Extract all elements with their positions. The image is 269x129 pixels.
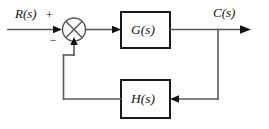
summing-junction-minus-sign: − [50, 34, 57, 46]
feedback-takeoff [170, 30, 218, 103]
output-signal-label: C(s) [213, 6, 235, 19]
feedback-into-sum [64, 37, 78, 99]
summing-junction-plus-sign: + [46, 9, 53, 21]
output-arrowhead-icon [240, 25, 251, 33]
feedback-block-arrowhead-icon [170, 95, 179, 102]
output-wire [170, 25, 251, 33]
input-signal-label: R(s) [15, 7, 37, 20]
forward-block-label: G(s) [131, 23, 155, 37]
error-arrowhead-icon [112, 26, 121, 33]
block-diagram-canvas: R(s) C(s) G(s) H(s) + − [0, 0, 269, 129]
error-wire [86, 26, 122, 33]
feedback-block-label: H(s) [131, 92, 155, 106]
